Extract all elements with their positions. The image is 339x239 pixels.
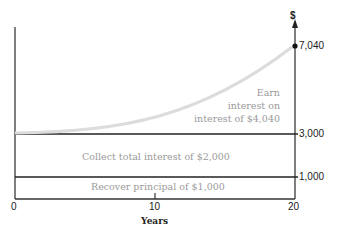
annotation-ioi-line2: interest on <box>180 100 280 111</box>
annotation-total-interest: Collect total interest of $2,000 <box>82 151 230 162</box>
x-axis-title: Years <box>141 216 168 226</box>
y-tick-3000: 3,000 <box>299 128 324 139</box>
y-tick-7040: 7,040 <box>299 40 324 51</box>
x-tick-20: 20 <box>288 201 299 212</box>
annotation-principal: Recover principal of $1,000 <box>91 181 225 192</box>
point-7040 <box>292 43 297 48</box>
y-unit-label: $ <box>290 10 296 21</box>
y-tick-1000: 1,000 <box>299 171 324 182</box>
x-tick-0: 0 <box>11 201 17 212</box>
annotation-ioi-line3: interest of $4,040 <box>170 113 280 124</box>
annotation-ioi-line1: Earn <box>180 87 280 98</box>
x-tick-10: 10 <box>149 201 160 212</box>
